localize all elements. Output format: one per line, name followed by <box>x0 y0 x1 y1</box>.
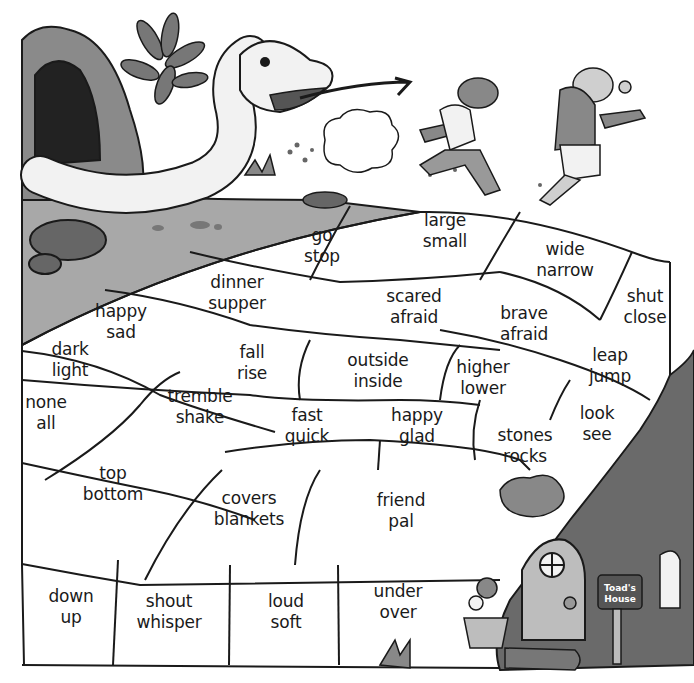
tile-down-up[interactable]: downup <box>48 586 93 628</box>
tile-word: soft <box>268 612 304 633</box>
tile-friend-pal[interactable]: friendpal <box>377 490 426 532</box>
frog-character <box>420 78 500 195</box>
tile-word: close <box>624 307 667 328</box>
tile-word: afraid <box>500 324 548 345</box>
tile-under-over[interactable]: underover <box>374 581 423 623</box>
tile-word: supper <box>208 293 265 314</box>
tile-word: pal <box>377 511 426 532</box>
mailbox-sign: Toad'sHouse <box>601 583 639 605</box>
tile-word: large <box>423 210 467 231</box>
tile-dinner-supper[interactable]: dinnersupper <box>208 272 265 314</box>
tile-loud-soft[interactable]: loudsoft <box>268 591 304 633</box>
tile-word: rocks <box>498 446 553 467</box>
tile-large-small[interactable]: largesmall <box>423 210 467 252</box>
tile-shut-close[interactable]: shutclose <box>624 286 667 328</box>
tile-word: wide <box>536 239 594 260</box>
tile-word: over <box>374 602 423 623</box>
tile-word: stop <box>304 246 340 267</box>
tile-word: look <box>580 403 615 424</box>
tile-look-see[interactable]: looksee <box>580 403 615 445</box>
tile-word: shut <box>624 286 667 307</box>
tile-word: under <box>374 581 423 602</box>
tile-fast-quick[interactable]: fastquick <box>285 405 329 447</box>
tile-word: scared <box>386 286 441 307</box>
tile-higher-lower[interactable]: higherlower <box>456 357 509 399</box>
tile-word: rise <box>237 363 267 384</box>
tile-wide-narrow[interactable]: widenarrow <box>536 239 594 281</box>
tile-word: none <box>25 392 67 413</box>
tile-word: shout <box>136 591 201 612</box>
tile-happy-glad[interactable]: happyglad <box>391 405 443 447</box>
tile-word: tremble <box>168 386 233 407</box>
tile-word: outside <box>347 350 408 371</box>
tile-tremble-shake[interactable]: trembleshake <box>168 386 233 428</box>
tile-word: quick <box>285 426 329 447</box>
tile-top-bottom[interactable]: topbottom <box>83 463 143 505</box>
tile-word: leap <box>589 345 631 366</box>
toad-character <box>540 68 645 205</box>
tile-none-all[interactable]: noneall <box>25 392 67 434</box>
tile-word: jump <box>589 366 631 387</box>
mailbox-text-line: House <box>601 594 639 605</box>
tile-word: small <box>423 231 467 252</box>
pebble <box>190 221 210 229</box>
tile-word: higher <box>456 357 509 378</box>
tile-word: go <box>304 225 340 246</box>
tile-word: fast <box>285 405 329 426</box>
tile-fall-rise[interactable]: fallrise <box>237 342 267 384</box>
flower <box>477 578 497 598</box>
flower-pot <box>464 618 508 648</box>
tile-covers-blankets[interactable]: coversblankets <box>214 488 284 530</box>
tile-happy-sad[interactable]: happysad <box>95 301 147 343</box>
log <box>505 648 580 670</box>
tile-brave-afraid[interactable]: braveafraid <box>500 303 548 345</box>
rock <box>29 254 61 274</box>
tile-word: covers <box>214 488 284 509</box>
ground-area <box>22 190 420 345</box>
tile-word: whisper <box>136 612 201 633</box>
tile-word: down <box>48 586 93 607</box>
tile-word: sad <box>95 322 147 343</box>
tile-word: friend <box>377 490 426 511</box>
pebble <box>214 224 222 230</box>
tile-outside-inside[interactable]: outsideinside <box>347 350 408 392</box>
tile-word: glad <box>391 426 443 447</box>
tile-word: blankets <box>214 509 284 530</box>
tile-shout-whisper[interactable]: shoutwhisper <box>136 591 201 633</box>
rock <box>303 192 347 208</box>
tile-word: fall <box>237 342 267 363</box>
dust-cloud <box>324 110 399 173</box>
tile-word: up <box>48 607 93 628</box>
tile-dark-light[interactable]: darklight <box>51 339 88 381</box>
tile-word: shake <box>168 407 233 428</box>
tile-word: all <box>25 413 67 434</box>
tile-word: dark <box>51 339 88 360</box>
tile-word: afraid <box>386 307 441 328</box>
tile-word: inside <box>347 371 408 392</box>
mailbox-text-line: Toad's <box>601 583 639 594</box>
tile-leap-jump[interactable]: leapjump <box>589 345 631 387</box>
tile-word: lower <box>456 378 509 399</box>
tile-stones-rocks[interactable]: stonesrocks <box>498 425 553 467</box>
tile-word: dinner <box>208 272 265 293</box>
tile-word: brave <box>500 303 548 324</box>
grass-tuft <box>380 640 410 668</box>
tile-word: stones <box>498 425 553 446</box>
tree-leaf-cluster <box>500 475 564 516</box>
mailbox-post <box>613 609 621 664</box>
snake-eye <box>260 57 270 67</box>
tile-scared-afraid[interactable]: scaredafraid <box>386 286 441 328</box>
tile-word: happy <box>95 301 147 322</box>
tile-word: bottom <box>83 484 143 505</box>
tile-go-stop[interactable]: gostop <box>304 225 340 267</box>
tile-word: top <box>83 463 143 484</box>
door-knob <box>564 597 576 609</box>
tile-word: happy <box>391 405 443 426</box>
tile-word: see <box>580 424 615 445</box>
tree-window <box>660 551 680 608</box>
tile-word: light <box>51 360 88 381</box>
fern-plant <box>118 12 208 107</box>
worksheet: gostop largesmall widenarrow shutclose d… <box>0 0 694 683</box>
flower <box>469 596 483 610</box>
pebble <box>152 225 164 231</box>
